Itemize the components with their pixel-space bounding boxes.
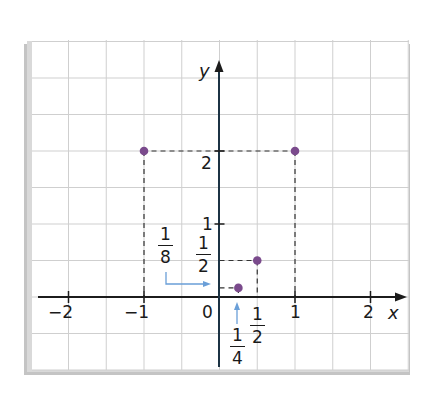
numerator: 1 [250, 306, 265, 325]
fraction-label-one-half-y: 1 2 [196, 235, 211, 275]
x-axis-label: x [388, 304, 399, 322]
grid-background [32, 40, 409, 370]
y-tick-label-2: 2 [201, 155, 212, 172]
origin-label: 0 [202, 304, 213, 321]
y-tick-label-1: 1 [202, 216, 213, 233]
coordinate-plane [0, 0, 426, 399]
x-tick-label-2: 2 [363, 304, 374, 321]
x-tick-label-neg2: −2 [48, 304, 73, 321]
numerator: 1 [230, 327, 245, 346]
numerator: 1 [196, 235, 211, 254]
denominator: 2 [198, 255, 209, 275]
x-tick-label-neg1: −1 [124, 304, 149, 321]
data-point [140, 147, 149, 156]
denominator: 8 [160, 246, 171, 266]
fraction-label-one-quarter: 1 4 [230, 327, 245, 367]
numerator: 1 [158, 226, 173, 245]
data-point [253, 256, 262, 265]
fraction-label-one-eighth: 1 8 [158, 226, 173, 266]
fraction-label-one-half-x: 1 2 [250, 306, 265, 346]
x-tick-label-1: 1 [290, 304, 301, 321]
data-point [234, 284, 243, 293]
denominator: 4 [232, 347, 243, 367]
y-axis-label: y [199, 62, 210, 80]
data-point [291, 147, 300, 156]
denominator: 2 [252, 326, 263, 346]
